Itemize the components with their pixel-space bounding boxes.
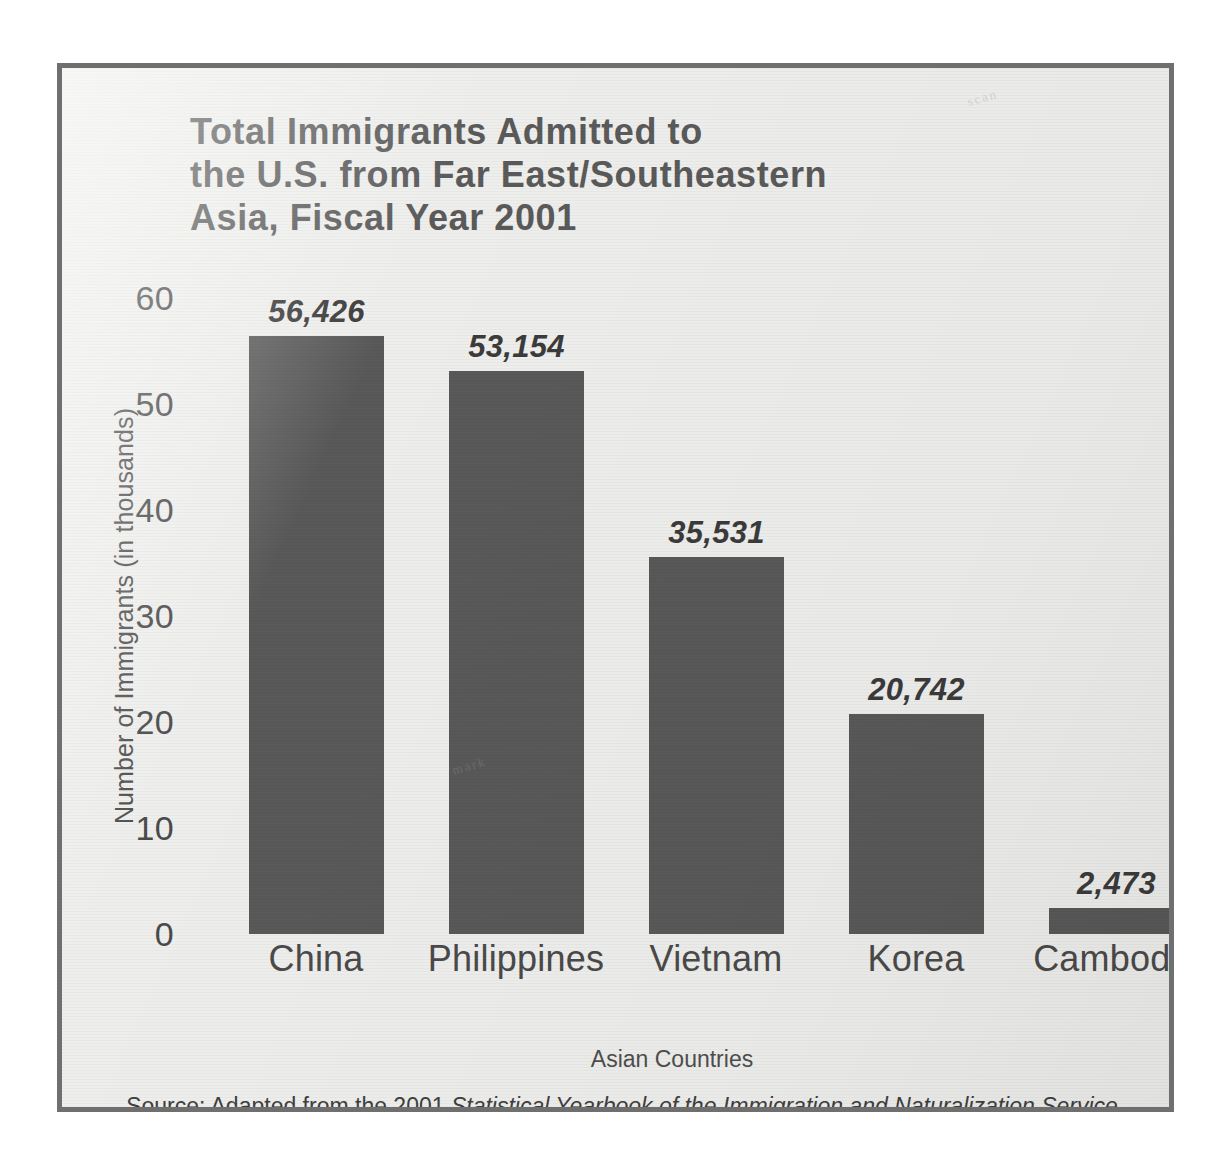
bar-rect-philippines[interactable] [449, 371, 584, 934]
y-tick-label-20: 20 [135, 703, 174, 742]
y-tick-label-60: 60 [135, 279, 174, 318]
bar-value-china: 56,426 [268, 294, 365, 330]
y-tick-label-50: 50 [135, 385, 174, 424]
x-tick-label-vietnam: Vietnam [650, 938, 783, 980]
chart-title-line-2: the U.S. from Far East/Southeastern [190, 153, 1070, 196]
bar-value-korea: 20,742 [868, 672, 965, 708]
bar-rect-korea[interactable] [849, 714, 984, 934]
bar-rect-china[interactable] [249, 336, 384, 934]
source-note: Source: Adapted from the 2001 Statistica… [122, 1093, 1122, 1112]
bar-value-cambodia: 2,473 [1077, 866, 1156, 902]
bar-value-vietnam: 35,531 [668, 515, 765, 551]
x-tick-label-china: China [268, 938, 363, 980]
bar-value-philippines: 53,154 [468, 329, 565, 365]
x-tick-label-philippines: Philippines [428, 938, 604, 980]
chart-title-line-1: Total Immigrants Admitted to [190, 110, 1070, 153]
y-tick-label-0: 0 [155, 915, 174, 954]
source-note-title: Statistical Yearbook of the Immigration … [451, 1093, 1118, 1112]
y-tick-label-30: 30 [135, 597, 174, 636]
chart-title: Total Immigrants Admitted to the U.S. fr… [190, 110, 1070, 239]
chart-title-line-3: Asia, Fiscal Year 2001 [190, 196, 1070, 239]
y-tick-label-10: 10 [135, 809, 174, 848]
x-axis-label: Asian Countries [192, 1046, 1152, 1073]
chart-figure-frame: Total Immigrants Admitted to the U.S. fr… [57, 63, 1174, 1112]
bar-rect-vietnam[interactable] [649, 557, 784, 934]
source-note-prefix: Source: Adapted from the 2001 [126, 1093, 451, 1112]
plot-area: Number of Immigrants (in thousands) 0 10… [192, 298, 1152, 934]
x-tick-label-korea: Korea [867, 938, 964, 980]
scan-smudge-top-right: scan [965, 86, 999, 110]
y-tick-label-40: 40 [135, 491, 174, 530]
y-axis-label: Number of Immigrants (in thousands) [110, 408, 139, 824]
x-tick-label-cambodia: Cambodia [1033, 938, 1174, 980]
bar-rect-cambodia[interactable] [1049, 908, 1174, 934]
